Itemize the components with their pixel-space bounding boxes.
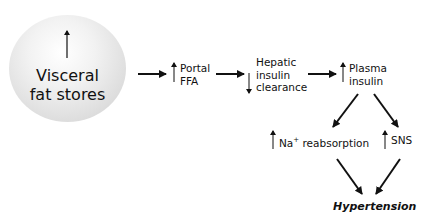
sns-label: SNS xyxy=(391,134,412,147)
visceral-fat-label: Visceral fat stores xyxy=(9,66,126,104)
arrow-na-to-hypertension xyxy=(337,159,362,194)
hepatic-clearance-label: Hepatic insulin clearance xyxy=(256,56,307,94)
portal-ffa-label: Portal FFA xyxy=(180,62,210,87)
hypertension-label: Hypertension xyxy=(333,200,416,213)
arrow-plasma-to-sns xyxy=(374,94,398,127)
arrow-sns-to-hypertension xyxy=(376,159,400,194)
plasma-insulin-label: Plasma insulin xyxy=(349,62,387,87)
na-reabsorption-label: Na+ reabsorption xyxy=(279,134,369,149)
arrow-plasma-to-na xyxy=(333,94,358,127)
arrows-layer xyxy=(0,0,427,223)
